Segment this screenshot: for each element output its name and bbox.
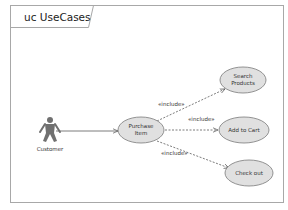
include-label-cart: «include» (188, 116, 215, 122)
use-case-diagram: uc UseCases «include» «include» «include… (0, 0, 288, 210)
include-label-search: «include» (158, 101, 185, 107)
include-label-checkout: «include» (161, 150, 188, 156)
use-case-purchase-item[interactable]: Purchase Item (118, 117, 164, 143)
actor-label: Customer (37, 146, 64, 152)
use-case-label-line1: Purchase (129, 123, 155, 129)
use-case-label-line2: Item (135, 130, 148, 136)
use-case-add-to-cart[interactable]: Add to Cart (219, 117, 269, 143)
use-case-search-products[interactable]: Search Products (220, 67, 266, 93)
use-case-label-line2: Products (231, 80, 255, 86)
frame-title: uc UseCases (24, 11, 91, 23)
use-case-label: Check out (235, 170, 264, 176)
use-case-check-out[interactable]: Check out (225, 160, 273, 186)
use-case-label-line1: Search (234, 73, 253, 79)
use-case-label: Add to Cart (228, 127, 260, 133)
